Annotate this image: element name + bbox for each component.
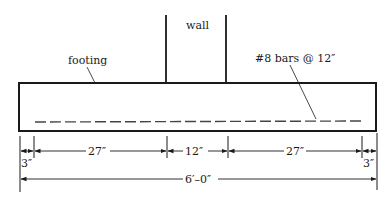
dim-left-projection: 27″ [88, 145, 106, 158]
footing-outline [19, 83, 376, 131]
rebar-label: #8 bars @ 12″ [255, 52, 335, 65]
rebar-line [35, 121, 362, 122]
dim-total-width: 6′–0″ [185, 173, 211, 186]
dim-right-projection: 27″ [286, 145, 304, 158]
dim-right-edge: 3″ [363, 157, 374, 170]
footing-diagram: wall footing #8 bars @ 12″ 3″ 27″ 12″ 27… [0, 0, 392, 200]
dim-left-edge: 3″ [21, 157, 32, 170]
footing-label: footing [68, 54, 107, 67]
dim-wall-width: 12″ [185, 145, 203, 158]
wall-label: wall [186, 19, 209, 32]
rebar-leader [290, 65, 316, 119]
footing-leader [87, 67, 95, 83]
